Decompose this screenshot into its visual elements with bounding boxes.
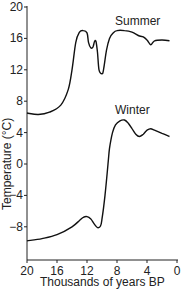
summer-label: Summer [115, 14, 160, 28]
y-tick-label: 8 [16, 94, 23, 108]
x-tick-label: 20 [20, 264, 34, 278]
winter-series-line [27, 120, 170, 241]
y-tick-label: −8 [9, 220, 23, 234]
temperature-chart: 201612840−4−8 201612840 Summer Winter Th… [0, 0, 191, 294]
summer-series-line [27, 30, 170, 114]
y-tick-label: 16 [10, 31, 24, 45]
x-tick-label: 0 [174, 264, 181, 278]
y-tick-label: 12 [10, 63, 24, 77]
winter-label: Winter [115, 103, 150, 117]
y-tick-label: 0 [16, 157, 23, 171]
y-axis-title: Temperature (°C) [0, 118, 14, 210]
y-tick-label: 20 [10, 0, 24, 14]
y-tick-label: 4 [16, 126, 23, 140]
x-axis-title: Thousands of years BP [40, 275, 165, 289]
